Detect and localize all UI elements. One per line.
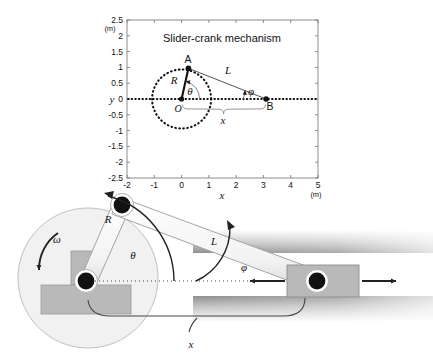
label-omega: ω — [53, 233, 61, 245]
y-tick-label: -0.5 — [108, 110, 123, 120]
y-tick-label: 0 — [118, 94, 123, 104]
x-axis-label: x — [219, 189, 225, 201]
x-tick-label: 5 — [316, 180, 321, 190]
y-tick-label: -1 — [115, 126, 123, 136]
y-tick-label: 1.5 — [111, 47, 123, 57]
y-axis-label: y — [109, 93, 115, 105]
x-tick-label: 3 — [261, 180, 266, 190]
label-phi-schematic: φ — [241, 261, 247, 273]
y-tick-label: -2 — [115, 157, 123, 167]
x-distance-brace — [183, 105, 266, 114]
x-tick-label: 2 — [234, 180, 239, 190]
label-point-A: A — [184, 53, 191, 65]
point-A — [186, 66, 192, 72]
label-point-O: O — [174, 103, 181, 114]
phi-arrow-head — [227, 220, 235, 230]
label-x-schematic: x — [188, 338, 194, 350]
y-tick-label: -1.5 — [108, 141, 123, 151]
x-tick-label: 4 — [288, 180, 293, 190]
label-angle-theta: θ — [187, 85, 193, 97]
label-L-schematic: L — [210, 235, 217, 247]
x-tick-label: 0 — [179, 180, 184, 190]
plot-title: Slider-crank mechanism — [163, 32, 281, 44]
y-axis-unit: (m) — [104, 24, 116, 33]
label-angle-phi: φ — [248, 85, 254, 97]
x-tick-label: -2 — [123, 180, 131, 190]
label-segment-L: L — [224, 64, 231, 76]
schematic-panel: ω θ R φ — [18, 191, 433, 350]
label-segment-R: R — [170, 74, 178, 86]
x-tick-label: -1 — [151, 180, 159, 190]
lower-rail-fade — [193, 296, 433, 322]
figure-svg: 2.5 2 1.5 1 0.5 0 -0.5 -1 -1.5 -2 -2.5 -… — [0, 0, 433, 361]
label-point-B: B — [266, 100, 273, 112]
label-R-schematic: R — [104, 213, 112, 225]
plot-panel: 2.5 2 1.5 1 0.5 0 -0.5 -1 -1.5 -2 -2.5 -… — [104, 15, 322, 201]
label-brace-x: x — [220, 114, 226, 126]
label-theta-schematic: θ — [130, 249, 136, 261]
x-tick-label: 1 — [207, 180, 212, 190]
y-tick-label: 2 — [118, 31, 123, 41]
y-tick-label: 1 — [118, 62, 123, 72]
y-tick-label: 0.5 — [111, 78, 123, 88]
point-O — [179, 96, 184, 101]
slider-pin-joint — [309, 273, 326, 290]
crank-center-joint — [78, 273, 95, 290]
x-axis-unit: (m) — [310, 190, 322, 199]
phi-arc — [243, 90, 245, 99]
y-tick-label: -2.5 — [108, 173, 123, 183]
figure-root: 2.5 2 1.5 1 0.5 0 -0.5 -1 -1.5 -2 -2.5 -… — [0, 0, 433, 361]
